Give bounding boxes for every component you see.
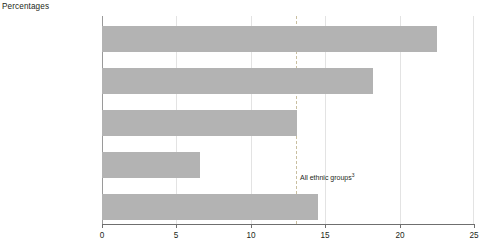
x-tick-label: 15 [320, 231, 329, 240]
x-tick-label: 0 [100, 231, 105, 240]
x-tick-mark [474, 224, 475, 228]
x-tick-mark [102, 224, 103, 228]
bar-chart: Percentages Pakistani/Bangladeshi Indian… [0, 0, 489, 250]
x-tick-label: 25 [469, 231, 478, 240]
bar-indian [102, 68, 373, 94]
reference-annotation-text: All ethnic groups [300, 174, 352, 181]
x-tick-label: 5 [174, 231, 179, 240]
plot-area: Pakistani/Bangladeshi Indian White Black… [102, 16, 474, 224]
x-tick-label: 10 [246, 231, 255, 240]
gridline-25 [473, 16, 474, 224]
x-tick-label: 20 [395, 231, 404, 240]
reference-line-annotation: All ethnic groups3 [300, 174, 355, 181]
x-tick-mark [176, 224, 177, 228]
bar-pakistani-bangladeshi [102, 26, 437, 52]
reference-annotation-footnote: 3 [352, 172, 355, 178]
x-tick-mark [400, 224, 401, 228]
x-axis-line [102, 224, 475, 225]
bar-white [102, 110, 297, 136]
x-tick-mark [325, 224, 326, 228]
bar-black [102, 152, 200, 178]
chart-axis-title: Percentages [2, 2, 49, 11]
x-tick-mark [251, 224, 252, 228]
bar-mixed-other [102, 194, 318, 220]
